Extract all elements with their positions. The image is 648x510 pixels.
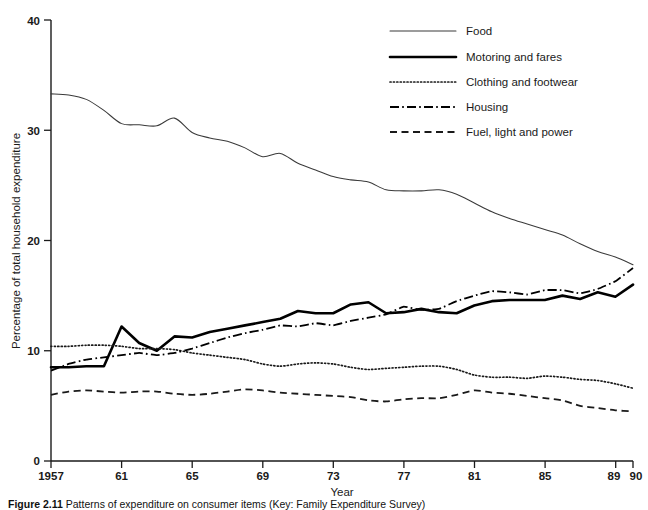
x-tick-label-61: 61 bbox=[115, 470, 128, 482]
x-tick-label-69: 69 bbox=[256, 470, 269, 482]
series-line-clothing bbox=[51, 345, 633, 388]
x-tick-label-1957: 1957 bbox=[38, 470, 64, 482]
legend-item-housing: Housing bbox=[390, 101, 508, 113]
x-tick-label-85: 85 bbox=[539, 470, 552, 482]
x-tick-label-81: 81 bbox=[468, 470, 481, 482]
figure-caption: Figure 2.11 Patterns of expenditure on c… bbox=[8, 498, 648, 510]
legend-label-motoring: Motoring and fares bbox=[466, 51, 562, 63]
series-line-motoring bbox=[51, 285, 633, 368]
x-tick-label-73: 73 bbox=[327, 470, 340, 482]
series-line-fuel bbox=[51, 389, 633, 411]
series-line-food bbox=[51, 94, 633, 265]
x-tick-label-89: 89 bbox=[608, 470, 621, 482]
line-chart: 0 10 20 30 40 1957 61 65 69 73 77 81 85 bbox=[0, 0, 648, 510]
legend-label-fuel: Fuel, light and power bbox=[466, 126, 573, 138]
legend-item-motoring: Motoring and fares bbox=[390, 51, 562, 63]
legend-label-clothing: Clothing and footwear bbox=[466, 76, 578, 88]
y-tick-label-10: 10 bbox=[27, 345, 40, 357]
x-axis-title: Year bbox=[330, 486, 353, 498]
series-line-housing bbox=[51, 268, 633, 371]
x-tick-label-90: 90 bbox=[630, 470, 643, 482]
x-axis-ticks: 1957 61 65 69 73 77 81 85 89 90 bbox=[38, 461, 642, 482]
y-axis-ticks: 0 10 20 30 40 bbox=[27, 15, 51, 468]
legend-item-clothing: Clothing and footwear bbox=[390, 76, 578, 88]
y-tick-label-20: 20 bbox=[27, 235, 40, 247]
figure-caption-body: Patterns of expenditure on consumer item… bbox=[66, 498, 426, 510]
x-tick-label-77: 77 bbox=[398, 470, 411, 482]
legend-label-housing: Housing bbox=[466, 101, 508, 113]
x-tick-label-65: 65 bbox=[186, 470, 199, 482]
legend-item-fuel: Fuel, light and power bbox=[390, 126, 573, 138]
legend-label-food: Food bbox=[466, 25, 492, 37]
chart-legend: Food Motoring and fares Clothing and foo… bbox=[390, 25, 578, 138]
figure-caption-number: Figure 2.11 bbox=[8, 498, 63, 510]
y-tick-label-40: 40 bbox=[27, 15, 40, 27]
y-axis-title: Percentage of total household expenditur… bbox=[10, 133, 22, 349]
y-tick-label-0: 0 bbox=[34, 455, 40, 467]
y-tick-label-30: 30 bbox=[27, 125, 40, 137]
figure-container: 0 10 20 30 40 1957 61 65 69 73 77 81 85 bbox=[0, 0, 648, 510]
data-series-group bbox=[51, 94, 633, 412]
legend-item-food: Food bbox=[390, 25, 492, 37]
